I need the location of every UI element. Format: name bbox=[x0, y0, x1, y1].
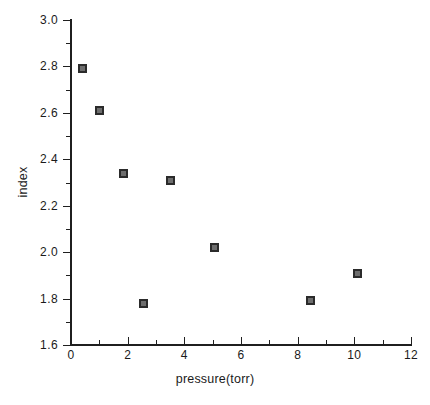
y-tick-major bbox=[63, 113, 71, 114]
y-tick-label: 2.2 bbox=[40, 199, 58, 213]
x-tick-label: 10 bbox=[347, 348, 361, 362]
data-point bbox=[166, 176, 175, 185]
y-tick-major bbox=[63, 20, 71, 21]
y-tick-major bbox=[63, 159, 71, 160]
y-tick-label: 3.0 bbox=[40, 13, 58, 27]
y-tick-label: 2.6 bbox=[40, 106, 58, 120]
data-point bbox=[139, 299, 148, 308]
data-point bbox=[306, 296, 315, 305]
y-tick-label: 2.4 bbox=[40, 152, 58, 166]
y-tick-major bbox=[63, 66, 71, 67]
plot-area bbox=[71, 20, 411, 345]
data-point bbox=[95, 106, 104, 115]
x-tick-label: 6 bbox=[237, 348, 244, 362]
y-tick-major bbox=[63, 345, 71, 346]
x-tick-label: 8 bbox=[294, 348, 301, 362]
y-tick-major bbox=[63, 299, 71, 300]
x-tick-label: 0 bbox=[67, 348, 74, 362]
y-tick-label: 1.6 bbox=[40, 338, 58, 352]
y-tick-major bbox=[63, 252, 71, 253]
x-axis-title: pressure(torr) bbox=[0, 372, 430, 386]
y-axis-title: index bbox=[16, 167, 30, 198]
y-tick-label: 1.8 bbox=[40, 292, 58, 306]
y-tick-label: 2.0 bbox=[40, 245, 58, 259]
x-tick-major bbox=[411, 337, 412, 345]
y-tick-major bbox=[63, 206, 71, 207]
scatter-chart: 1.61.82.02.22.42.62.83.0 024681012 press… bbox=[0, 0, 430, 405]
data-point bbox=[119, 169, 128, 178]
x-tick-label: 4 bbox=[181, 348, 188, 362]
x-tick-label: 2 bbox=[124, 348, 131, 362]
x-tick-label: 12 bbox=[404, 348, 418, 362]
data-point bbox=[78, 64, 87, 73]
data-point bbox=[353, 269, 362, 278]
y-tick-label: 2.8 bbox=[40, 59, 58, 73]
data-point bbox=[210, 243, 219, 252]
